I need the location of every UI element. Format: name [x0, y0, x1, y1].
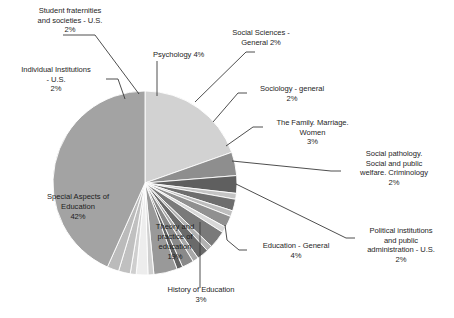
- label-education-general: Education - General 4%: [244, 241, 348, 260]
- label-psychology: Psychology 4%: [153, 50, 231, 60]
- label-special-aspects-of-education: Special Aspects of Education 42%: [26, 192, 130, 222]
- label-social-sciences-general: Social Sciences - General 2%: [213, 28, 309, 47]
- label-social-pathology: Social pathology. Social and public welf…: [338, 149, 450, 187]
- label-sociology-general: Sociology - general 2%: [239, 84, 345, 103]
- leader-line-social-pathology: [232, 161, 341, 171]
- label-family-marriage-women: The Family. Marriage. Women 3%: [255, 118, 370, 147]
- pie-chart-figure: Student fraternities and societies - U.S…: [0, 0, 454, 318]
- label-history-of-education: History of Education 3%: [145, 285, 257, 304]
- label-theory-and-practice-of-education: Theory and practice of education 19%: [141, 222, 209, 262]
- label-individual-institutions: Individual Institutions - U.S. 2%: [2, 65, 110, 94]
- label-student-fraternities: Student fraternities and societies - U.S…: [10, 6, 130, 35]
- label-political-institutions: Political institutions and public admini…: [348, 226, 454, 264]
- leader-line-political-institutions: [236, 184, 355, 238]
